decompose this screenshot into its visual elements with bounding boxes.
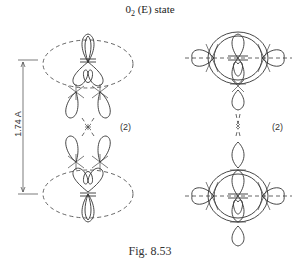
right-multiplicity-label: (2)	[272, 122, 283, 132]
left-multiplicity-label: (2)	[120, 122, 131, 132]
figure-canvas: 02 (E) state	[0, 0, 300, 258]
figure-caption: Fig. 8.53	[0, 244, 300, 258]
left-molecule	[18, 34, 133, 222]
center-star	[85, 124, 91, 130]
orbital-diagram	[0, 0, 300, 258]
bond-length-label: 1.74 A	[13, 111, 25, 137]
right-molecule	[185, 32, 292, 246]
